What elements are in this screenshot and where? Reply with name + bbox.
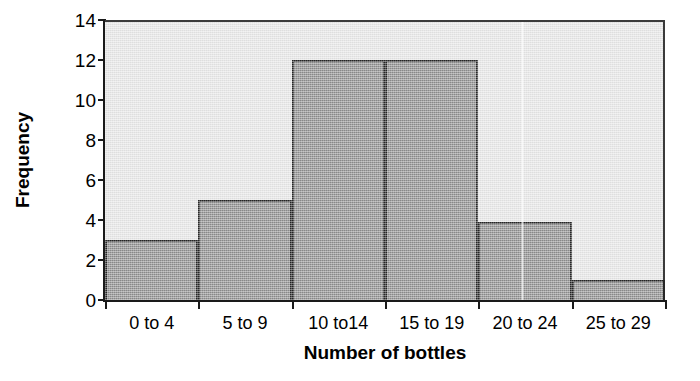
x-axis-tick-mark bbox=[385, 300, 387, 309]
y-axis-tick-label: 14 bbox=[52, 11, 96, 30]
x-axis-tick-mark bbox=[572, 300, 574, 309]
plot-area bbox=[105, 20, 665, 300]
x-axis-tick-labels: 0 to 45 to 910 to1415 to 1920 to 2425 to… bbox=[105, 311, 665, 337]
x-axis-tick-mark bbox=[198, 300, 200, 309]
x-axis-tick-mark bbox=[292, 300, 294, 309]
y-axis-tick-label: 12 bbox=[52, 51, 96, 70]
x-axis-title: Number of bottles bbox=[105, 341, 665, 365]
y-axis-tick-label: 2 bbox=[52, 251, 96, 270]
histogram-bar bbox=[292, 60, 385, 300]
y-axis-tick-label: 4 bbox=[52, 211, 96, 230]
x-axis-tick-label: 25 to 29 bbox=[572, 311, 665, 335]
histogram-bar bbox=[198, 200, 291, 300]
x-axis-tick-label: 10 to14 bbox=[292, 311, 385, 335]
x-axis-tick-label: 5 to 9 bbox=[198, 311, 291, 335]
x-axis-tick-mark bbox=[105, 300, 107, 309]
y-axis-tick-label: 8 bbox=[52, 131, 96, 150]
y-axis-tick-labels: 02468101214 bbox=[52, 20, 96, 300]
x-axis-tick-label: 15 to 19 bbox=[385, 311, 478, 335]
x-axis-tick-label: 0 to 4 bbox=[105, 311, 198, 335]
x-axis-tick-marks bbox=[105, 300, 667, 309]
y-axis-tick-label: 0 bbox=[52, 291, 96, 310]
y-axis-tick-label: 10 bbox=[52, 91, 96, 110]
y-axis-tick-label: 6 bbox=[52, 171, 96, 190]
y-axis-title: Frequency bbox=[0, 0, 46, 320]
y-axis-line bbox=[103, 20, 105, 302]
x-axis-tick-label: 20 to 24 bbox=[478, 311, 571, 335]
histogram-bar bbox=[572, 280, 665, 300]
x-axis-tick-mark bbox=[478, 300, 480, 309]
x-axis-tick-mark bbox=[665, 300, 667, 309]
histogram-bar bbox=[385, 60, 478, 300]
histogram-chart: Frequency 02468101214 0 to 45 to 910 to1… bbox=[0, 0, 700, 381]
histogram-bar bbox=[105, 240, 198, 300]
histogram-bar bbox=[478, 222, 571, 300]
y-axis-title-label: Frequency bbox=[12, 112, 34, 208]
